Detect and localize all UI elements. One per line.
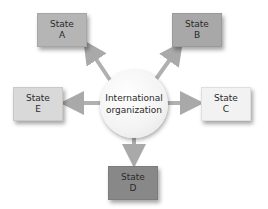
state-d-node: State D xyxy=(108,166,158,200)
state-d-letter: D xyxy=(130,183,137,194)
state-d-label: State xyxy=(121,172,145,183)
state-c-letter: C xyxy=(223,104,229,115)
state-e-node: State E xyxy=(13,87,63,121)
state-a-letter: A xyxy=(59,30,65,41)
state-b-label: State xyxy=(185,19,209,30)
state-c-label: State xyxy=(214,93,238,104)
state-c-node: State C xyxy=(201,87,251,121)
state-a-label: State xyxy=(50,19,74,30)
international-organization-node: International organization xyxy=(100,70,168,138)
center-label-line2: organization xyxy=(106,104,162,116)
arrow-to-state-b xyxy=(156,51,176,79)
center-label-line1: International xyxy=(105,92,162,104)
state-e-label: State xyxy=(26,93,50,104)
state-e-letter: E xyxy=(35,104,41,115)
state-b-letter: B xyxy=(194,30,200,41)
arrow-to-state-a xyxy=(90,50,110,80)
state-b-node: State B xyxy=(172,13,222,47)
state-a-node: State A xyxy=(37,13,87,47)
